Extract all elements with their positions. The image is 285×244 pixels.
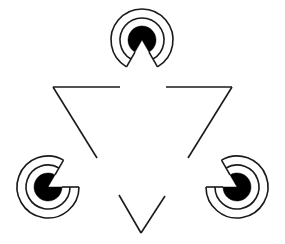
figure-canvas <box>0 0 285 244</box>
illusory-triangle-figure <box>0 0 285 244</box>
